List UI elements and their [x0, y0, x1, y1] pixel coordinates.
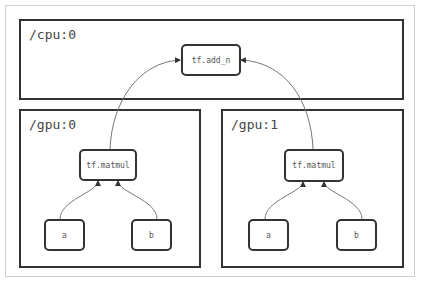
node-gpu0-a: a — [44, 219, 85, 251]
edge-gpu0-matmul-to-add-n — [110, 60, 180, 149]
node-gpu1-a: a — [248, 219, 289, 251]
node-label: a — [62, 231, 67, 240]
node-gpu0-b: b — [131, 219, 172, 251]
edge-gpu1-matmul-to-add-n — [241, 60, 313, 149]
edge-gpu1-a-to-matmul — [265, 182, 303, 219]
edge-gpu0-a-to-matmul — [60, 181, 98, 219]
edge-gpu0-b-to-matmul — [118, 181, 157, 219]
node-label: tf.matmul — [292, 161, 335, 170]
node-gpu0-matmul: tf.matmul — [79, 149, 137, 181]
node-gpu1-b: b — [336, 219, 377, 251]
edge-gpu1-b-to-matmul — [324, 182, 362, 219]
node-label: a — [266, 231, 271, 240]
node-label: b — [354, 231, 359, 240]
node-label: b — [149, 231, 154, 240]
node-label: tf.add_n — [192, 56, 231, 65]
node-add-n: tf.add_n — [181, 44, 241, 76]
node-label: tf.matmul — [86, 161, 129, 170]
node-gpu1-matmul: tf.matmul — [284, 149, 344, 182]
